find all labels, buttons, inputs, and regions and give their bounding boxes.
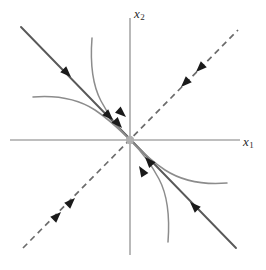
phase-portrait-canvas: [0, 0, 266, 270]
x2-axis-label-subscript: 2: [140, 12, 145, 22]
x1-axis-label-subscript: 1: [249, 140, 254, 150]
arrowhead-dashed-lower-2: [50, 209, 64, 223]
arrowhead-dashed-lower-1: [64, 195, 78, 209]
x1-axis-label-base: x: [243, 134, 249, 149]
trajectory-upper-left-outer: [33, 97, 129, 139]
trajectory-lower-right-inner: [131, 141, 169, 242]
trajectory-lower-right-outer: [131, 141, 227, 183]
trajectory-upper-left-inner: [91, 38, 129, 139]
x2-axis-label: x2: [134, 6, 145, 22]
phase-portrait-figure: x2 x1: [0, 0, 266, 270]
x1-axis-label: x1: [243, 134, 254, 150]
x2-axis-label-base: x: [134, 6, 140, 21]
arrowhead-curve-lower-right-inner: [135, 164, 148, 178]
axes-group: [10, 18, 240, 255]
origin-equilibrium-point: [126, 136, 134, 144]
